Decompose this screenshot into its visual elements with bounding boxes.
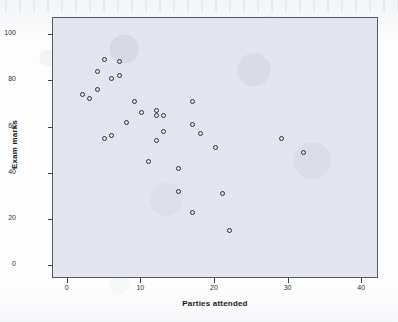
y-axis-title: Exam marks [10,100,19,190]
x-axis-tick-label: 40 [346,284,376,291]
plot-frame [52,17,378,278]
data-point [80,92,85,97]
x-axis-tick-label: 10 [125,284,155,291]
data-point [227,228,232,233]
scatter-plot-screenshot: 010203040 Exam marks Parties attended 02… [0,0,398,322]
data-point [95,69,100,74]
plot-data-area [53,18,377,277]
x-axis-tick-label: 0 [52,284,82,291]
y-axis-tick-label: 60 [0,122,16,129]
scan-artifact-band [0,0,398,12]
y-axis-tick-label: 80 [0,75,16,82]
x-axis-tick [288,278,289,283]
y-axis-tick-label: 100 [0,29,16,36]
data-point [95,87,100,92]
data-point [301,150,306,155]
data-point [154,138,159,143]
x-axis: 010203040 [52,278,378,300]
data-point [176,189,181,194]
data-point [279,136,284,141]
data-point [109,76,114,81]
x-axis-tick-label: 30 [273,284,303,291]
x-axis-title: Parties attended [52,299,378,308]
x-axis-tick [214,278,215,283]
data-point [220,191,225,196]
data-point [117,59,122,64]
data-point [117,73,122,78]
x-axis-tick [140,278,141,283]
data-point [161,129,166,134]
data-point [139,110,144,115]
data-point [124,120,129,125]
data-point [102,136,107,141]
data-point [213,145,218,150]
data-point [176,166,181,171]
data-point [154,113,159,118]
data-point [190,210,195,215]
x-axis-tick [361,278,362,283]
y-axis-tick-label: 0 [0,260,16,267]
data-point [190,99,195,104]
data-point [198,131,203,136]
data-point [146,159,151,164]
data-point [190,122,195,127]
x-axis-tick [67,278,68,283]
data-point [161,113,166,118]
data-point [87,96,92,101]
y-axis-tick-label: 40 [0,168,16,175]
data-point [109,133,114,138]
y-axis-tick-label: 20 [0,214,16,221]
data-point [102,57,107,62]
data-point [132,99,137,104]
x-axis-tick-label: 20 [199,284,229,291]
